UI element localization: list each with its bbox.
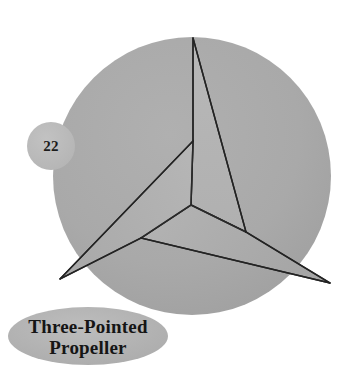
figure-caption: Three-Pointed Propeller: [8, 307, 168, 365]
figure-number-badge: 22: [27, 122, 75, 170]
badge-label: 22: [43, 138, 59, 154]
caption-line-2: Propeller: [49, 337, 127, 358]
three-pointed-propeller-figure: 22 Three-Pointed Propeller: [0, 0, 353, 375]
caption-line-1: Three-Pointed: [28, 316, 148, 337]
figure-container: 22 Three-Pointed Propeller: [0, 0, 353, 375]
